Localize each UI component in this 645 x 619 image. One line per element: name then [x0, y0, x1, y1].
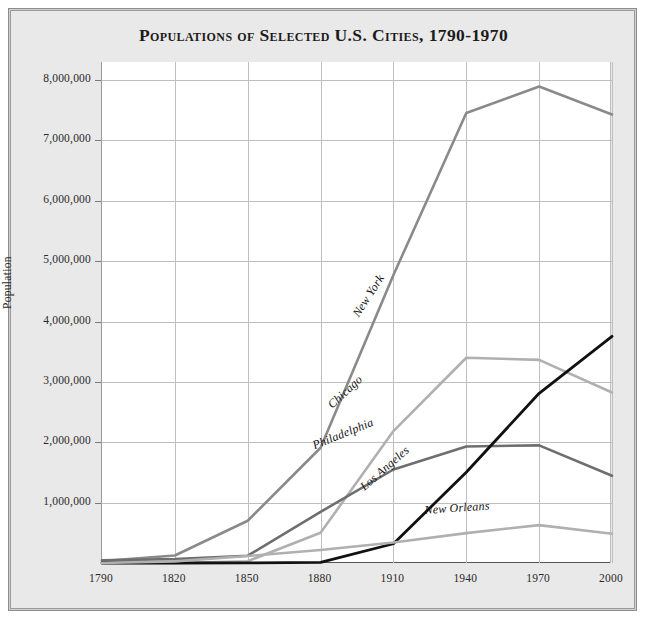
y-tick-label: 3,000,000 — [9, 374, 91, 386]
y-tick-label: 2,000,000 — [9, 434, 91, 446]
y-tick-label: 1,000,000 — [9, 495, 91, 507]
y-tick-label: 6,000,000 — [9, 193, 91, 205]
gridline-vertical — [612, 62, 613, 563]
chart-frame: Populations of Selected U.S. Cities, 179… — [8, 8, 637, 611]
x-tick-label: 1820 — [134, 572, 214, 584]
chart-title: Populations of Selected U.S. Cities, 179… — [9, 25, 638, 46]
y-tick-label: 8,000,000 — [9, 72, 91, 84]
x-tick-label: 1790 — [61, 572, 141, 584]
series-line — [102, 445, 612, 560]
series-line — [102, 525, 612, 563]
x-tick-label: 1940 — [425, 572, 505, 584]
y-tick-label: 7,000,000 — [9, 132, 91, 144]
y-tick-label: 4,000,000 — [9, 314, 91, 326]
y-tick-label: 5,000,000 — [9, 253, 91, 265]
chart-figure: Populations of Selected U.S. Cities, 179… — [0, 0, 645, 619]
series-line — [102, 336, 612, 563]
x-tick-label: 2000 — [571, 572, 645, 584]
x-tick-label: 1880 — [280, 572, 360, 584]
plot-area: New YorkChicagoPhiladelphiaLos AngelesNe… — [101, 62, 611, 563]
x-tick-label: 1970 — [498, 572, 578, 584]
x-tick-label: 1850 — [207, 572, 287, 584]
x-tick-label: 1910 — [352, 572, 432, 584]
